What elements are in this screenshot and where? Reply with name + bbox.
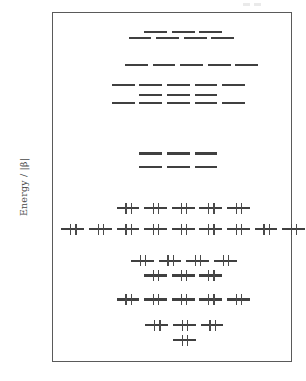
virtual-energy-level xyxy=(172,31,195,33)
electron-spin-down-arrow xyxy=(103,224,104,235)
electron-spin-down-arrow xyxy=(187,335,188,346)
electron-spin-up-arrow xyxy=(195,255,196,266)
energy-levels-layer xyxy=(53,13,291,361)
occupied-energy-level xyxy=(227,298,250,300)
electron-spin-up-arrow xyxy=(181,203,182,214)
occupied-energy-level xyxy=(186,260,209,262)
electron-spin-up-arrow xyxy=(125,224,126,235)
virtual-energy-level xyxy=(167,84,190,86)
electron-spin-down-arrow xyxy=(186,224,187,235)
electron-spin-up-arrow xyxy=(236,224,237,235)
virtual-energy-level xyxy=(195,166,218,168)
electron-spin-down-arrow xyxy=(145,255,146,266)
electron-spin-up-arrow xyxy=(208,270,209,281)
occupied-energy-level xyxy=(144,274,167,276)
occupied-energy-level xyxy=(172,274,195,276)
virtual-energy-level xyxy=(211,37,234,39)
electron-spin-down-arrow xyxy=(296,224,297,235)
virtual-energy-level xyxy=(153,64,176,66)
occupied-energy-level xyxy=(144,298,167,300)
electron-spin-up-arrow xyxy=(208,203,209,214)
electron-spin-down-arrow xyxy=(173,255,174,266)
virtual-energy-level xyxy=(208,64,231,66)
electron-spin-up-arrow xyxy=(208,294,209,305)
virtual-energy-level xyxy=(184,37,207,39)
electron-spin-up-arrow xyxy=(153,224,154,235)
electron-spin-up-arrow xyxy=(181,294,182,305)
occupied-energy-level xyxy=(199,228,222,230)
electron-spin-up-arrow xyxy=(98,224,99,235)
electron-spin-down-arrow xyxy=(131,224,132,235)
electron-spin-up-arrow xyxy=(153,203,154,214)
electron-spin-down-arrow xyxy=(186,203,187,214)
occupied-energy-level xyxy=(201,324,224,326)
virtual-energy-level xyxy=(195,84,218,86)
virtual-energy-level xyxy=(222,102,245,104)
electron-spin-up-arrow xyxy=(223,255,224,266)
y-axis-label: Energy / |β| xyxy=(18,12,34,362)
electron-spin-up-arrow xyxy=(153,270,154,281)
electron-spin-up-arrow xyxy=(140,255,141,266)
occupied-energy-level xyxy=(89,228,112,230)
electron-spin-down-arrow xyxy=(215,320,216,331)
electron-spin-up-arrow xyxy=(181,270,182,281)
occupied-energy-level xyxy=(227,228,250,230)
occupied-energy-level xyxy=(131,260,154,262)
electron-spin-down-arrow xyxy=(241,224,242,235)
virtual-energy-level xyxy=(139,94,162,96)
occupied-energy-level xyxy=(117,298,140,300)
electron-spin-down-arrow xyxy=(75,224,76,235)
occupied-energy-level xyxy=(61,228,84,230)
occupied-energy-level xyxy=(282,228,305,230)
occupied-energy-level xyxy=(144,228,167,230)
occupied-energy-level xyxy=(227,207,250,209)
virtual-energy-level xyxy=(112,84,135,86)
virtual-energy-level xyxy=(167,94,190,96)
plot-area xyxy=(52,12,292,362)
virtual-energy-level xyxy=(139,152,162,154)
electron-spin-down-arrow xyxy=(131,294,132,305)
electron-spin-up-arrow xyxy=(236,294,237,305)
electron-spin-down-arrow xyxy=(213,224,214,235)
occupied-energy-level xyxy=(172,298,195,300)
electron-spin-up-arrow xyxy=(125,294,126,305)
electron-spin-up-arrow xyxy=(236,203,237,214)
virtual-energy-level xyxy=(167,166,190,168)
virtual-energy-level xyxy=(129,37,152,39)
electron-spin-down-arrow xyxy=(158,203,159,214)
electron-spin-down-arrow xyxy=(213,203,214,214)
scan-artifact xyxy=(254,3,261,6)
virtual-energy-level xyxy=(139,102,162,104)
electron-spin-down-arrow xyxy=(131,203,132,214)
electron-spin-down-arrow xyxy=(186,270,187,281)
occupied-energy-level xyxy=(214,260,237,262)
electron-spin-up-arrow xyxy=(182,320,183,331)
virtual-energy-level xyxy=(144,31,167,33)
scan-artifact xyxy=(243,3,250,6)
virtual-energy-level xyxy=(195,102,218,104)
virtual-energy-level xyxy=(125,64,148,66)
electron-spin-up-arrow xyxy=(181,224,182,235)
occupied-energy-level xyxy=(117,207,140,209)
occupied-energy-level xyxy=(172,228,195,230)
occupied-energy-level xyxy=(173,324,196,326)
electron-spin-up-arrow xyxy=(182,335,183,346)
electron-spin-down-arrow xyxy=(241,203,242,214)
electron-spin-down-arrow xyxy=(213,294,214,305)
electron-spin-down-arrow xyxy=(200,255,201,266)
virtual-energy-level xyxy=(222,84,245,86)
virtual-energy-level xyxy=(139,84,162,86)
electron-spin-up-arrow xyxy=(291,224,292,235)
virtual-energy-level xyxy=(156,37,179,39)
electron-spin-down-arrow xyxy=(241,294,242,305)
electron-spin-down-arrow xyxy=(159,320,160,331)
electron-spin-up-arrow xyxy=(208,224,209,235)
electron-spin-down-arrow xyxy=(228,255,229,266)
occupied-energy-level xyxy=(172,207,195,209)
occupied-energy-level xyxy=(144,207,167,209)
occupied-energy-level xyxy=(199,298,222,300)
virtual-energy-level xyxy=(167,152,190,154)
virtual-energy-level xyxy=(199,31,222,33)
virtual-energy-level xyxy=(180,64,203,66)
occupied-energy-level xyxy=(255,228,278,230)
